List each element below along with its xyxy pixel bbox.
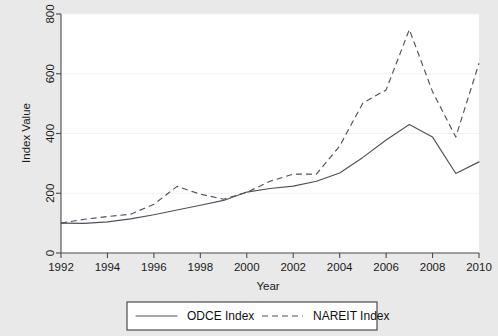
x-tick-label-2004: 2004	[327, 261, 353, 273]
y-tick-label-400: 400	[44, 124, 56, 143]
index-value-line-chart: 0200400600800 19921994199619982000200220…	[0, 0, 498, 336]
x-tick-label-2010: 2010	[466, 261, 492, 273]
y-axis-title: Index Value	[20, 103, 32, 163]
y-tick-label-800: 800	[44, 4, 56, 23]
y-tick-label-200: 200	[44, 184, 56, 203]
x-axis-title: Year	[256, 280, 279, 292]
x-tick-label-2008: 2008	[420, 261, 446, 273]
y-tick-label-0: 0	[44, 250, 56, 256]
x-tick-label-1996: 1996	[141, 261, 167, 273]
x-tick-label-2002: 2002	[280, 261, 306, 273]
y-tick-label-600: 600	[44, 64, 56, 83]
x-tick-label-1998: 1998	[188, 261, 214, 273]
legend-label-nareit: NAREIT Index	[313, 309, 389, 323]
x-tick-label-1992: 1992	[48, 261, 74, 273]
x-tick-label-2000: 2000	[234, 261, 260, 273]
chart-legend: ODCE Index NAREIT Index	[127, 302, 389, 330]
legend-label-odce: ODCE Index	[187, 309, 254, 323]
x-tick-label-1994: 1994	[95, 261, 121, 273]
x-tick-label-2006: 2006	[373, 261, 399, 273]
